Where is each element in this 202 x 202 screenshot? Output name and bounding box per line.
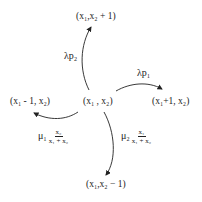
arrow-up xyxy=(82,27,91,90)
rate-left-num: x₂ xyxy=(55,128,63,137)
rate-up-label: λp₂ xyxy=(64,50,77,61)
node-center: (x₁ , x₂) xyxy=(83,96,113,106)
rate-left-den: x₁ + x₂ xyxy=(49,137,68,145)
rate-left-label: μ₁x₂x₁ + x₂ xyxy=(38,128,68,145)
arrow-right xyxy=(116,84,162,91)
node-right: (x₁+1, x₂) xyxy=(152,96,189,106)
rate-left-coef: μ₁ xyxy=(38,130,47,141)
node-down: (x₁,x₂ − 1) xyxy=(86,179,126,189)
arrow-left xyxy=(34,112,78,119)
rate-down-coef: μ₂ xyxy=(121,130,130,141)
rate-down-den: x₁ + x₂ xyxy=(132,137,151,145)
arrow-down xyxy=(104,112,113,175)
rate-down-num: x₁ xyxy=(138,128,146,137)
node-left: (x₁ - 1, x₂) xyxy=(10,96,50,106)
rate-down-fraction: x₁x₁ + x₂ xyxy=(132,128,151,145)
rate-left-fraction: x₂x₁ + x₂ xyxy=(49,128,68,145)
rate-down-label: μ₂x₁x₁ + x₂ xyxy=(121,128,151,145)
rate-right-label: λp₁ xyxy=(137,67,150,78)
node-up: (x₁,x₂ + 1) xyxy=(76,11,116,21)
